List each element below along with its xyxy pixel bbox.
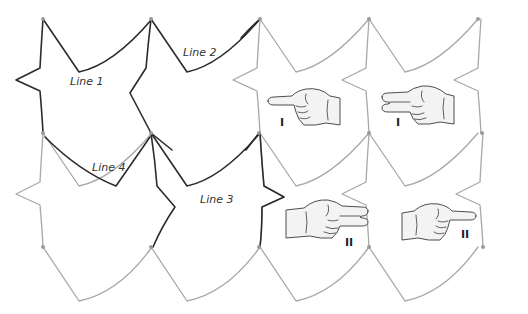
label-line-3: Line 3 [200,193,233,206]
two-finger-hand-icon [382,86,454,124]
label-line-1: Line 1 [70,75,103,88]
light-grid [16,19,483,301]
numeral-hand-3: II [345,236,353,249]
two-finger-hand-icon [286,200,368,238]
numeral-hand-4: II [461,228,469,241]
pointing-hand-icon [268,89,340,126]
numeral-hand-2: I [396,116,400,129]
tessellation-diagram: Line 1 Line 2 Line 4 Line 3 I I II II [0,0,528,314]
label-line-4: Line 4 [92,161,125,174]
numeral-hand-1: I [280,116,284,129]
label-line-2: Line 2 [183,46,216,59]
